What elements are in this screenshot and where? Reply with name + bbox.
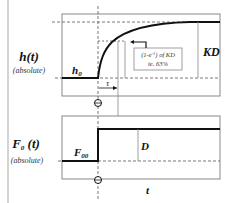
annotation-pointer xyxy=(132,42,146,48)
tau-label: τ xyxy=(106,78,110,88)
annotation-line-2: ie. 63% xyxy=(148,60,168,67)
annotation-line-1: (1-e-1) of KD xyxy=(141,51,175,59)
h-of-t-label: h(t) xyxy=(19,49,39,64)
annotation-arrowhead xyxy=(130,40,134,44)
d-label: D xyxy=(140,140,149,152)
f-absolute-label: (absolute) xyxy=(11,156,44,165)
step-response-diagram: h(t) (absolute) h0 KD τ (1-e-1) of KD ie… xyxy=(0,0,231,203)
f00-label: F00 xyxy=(73,146,89,160)
diagram-canvas: h(t) (absolute) h0 KD τ (1-e-1) of KD ie… xyxy=(0,0,231,203)
f0-of-t-label: F0 (t) xyxy=(11,136,40,152)
kd-label: KD xyxy=(202,45,220,59)
h-absolute-label: (absolute) xyxy=(13,66,46,75)
t-axis-label: t xyxy=(146,184,150,196)
h0-label: h0 xyxy=(72,64,82,78)
tau-arrowhead xyxy=(113,86,117,90)
